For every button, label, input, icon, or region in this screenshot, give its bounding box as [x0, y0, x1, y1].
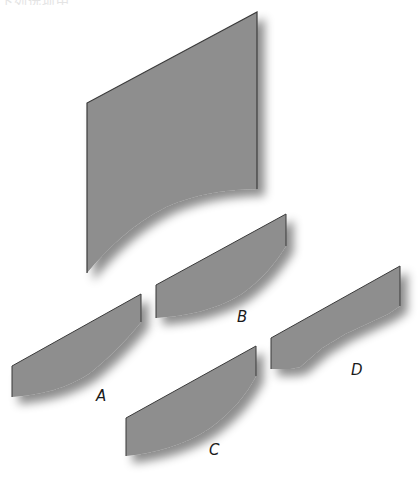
option-c-label: C: [209, 441, 220, 459]
option-a-shape[interactable]: [12, 294, 141, 397]
option-c-shape[interactable]: [126, 346, 256, 456]
option-d-label: D: [351, 361, 363, 379]
option-a-label: A: [95, 387, 106, 405]
main-shape: [87, 12, 257, 273]
option-d-shape[interactable]: [271, 266, 400, 369]
option-b-label: B: [237, 308, 247, 326]
figure-canvas: A B C D: [0, 0, 420, 482]
option-b-shape[interactable]: [156, 214, 286, 318]
